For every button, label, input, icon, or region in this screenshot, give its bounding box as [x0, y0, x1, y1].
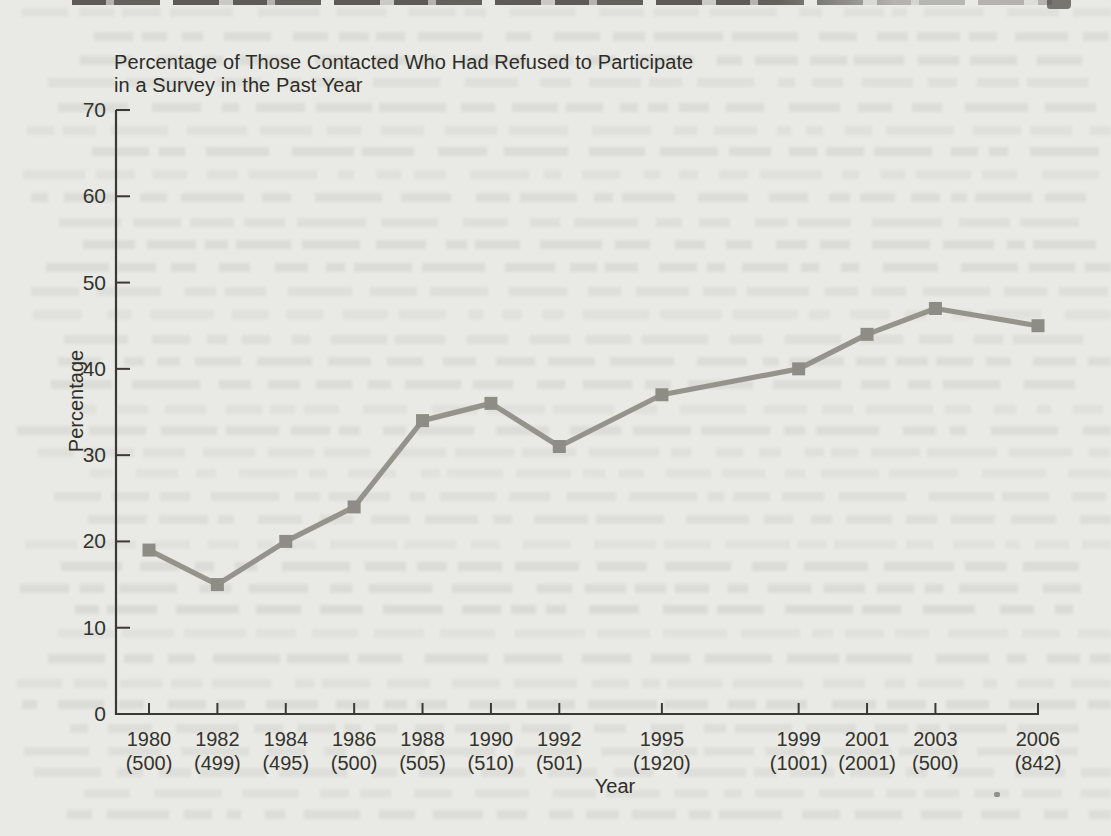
ink-speck [994, 792, 1000, 797]
data-point-marker [484, 397, 497, 410]
data-point-marker [929, 302, 942, 315]
data-point-marker [861, 328, 874, 341]
x-tick-sample-size: (842) [993, 751, 1083, 775]
data-point-marker [416, 414, 429, 427]
x-tick-year: 2003 [890, 727, 980, 751]
x-tick-sample-size: (500) [890, 751, 980, 775]
scanned-book-page: Percentage of Those Contacted Who Had Re… [0, 0, 1111, 836]
x-tick-year: 2006 [993, 727, 1083, 751]
axis-lines [116, 110, 1039, 714]
y-axis-title: Percentage [65, 331, 89, 471]
x-tick-year: 1995 [617, 727, 707, 751]
y-tick-label: 70 [46, 98, 106, 122]
data-point-marker [279, 535, 292, 548]
data-point-marker [553, 440, 566, 453]
x-tick-sample-size: (501) [514, 751, 604, 775]
x-tick-year: 1992 [514, 727, 604, 751]
y-tick-label: 60 [46, 184, 106, 208]
y-tick-label: 0 [46, 702, 106, 726]
x-tick-label: 2006(842) [993, 727, 1083, 775]
y-tick-label: 10 [46, 616, 106, 640]
y-tick-label: 20 [46, 529, 106, 553]
x-tick-label: 2003(500) [890, 727, 980, 775]
data-point-marker [143, 544, 156, 557]
x-tick-label: 1992(501) [514, 727, 604, 775]
data-point-marker [348, 500, 361, 513]
x-tick-label: 1995(1920) [617, 727, 707, 775]
survey-refusal-line-chart: Percentage of Those Contacted Who Had Re… [0, 0, 1111, 836]
y-tick-label: 50 [46, 271, 106, 295]
data-point-marker [211, 578, 224, 591]
data-point-marker [792, 362, 805, 375]
chart-plot [0, 0, 1111, 836]
data-point-marker [1032, 319, 1045, 332]
x-tick-sample-size: (1920) [617, 751, 707, 775]
data-point-marker [655, 388, 668, 401]
x-axis-title: Year [572, 775, 658, 798]
